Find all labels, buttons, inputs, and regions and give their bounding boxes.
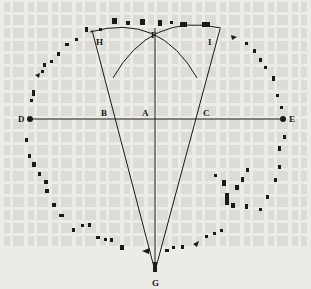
line-HG — [92, 30, 155, 271]
arc-left — [90, 27, 197, 78]
label-I: I — [208, 37, 212, 47]
label-F: F — [151, 30, 157, 40]
line-IG — [155, 29, 220, 271]
label-A: A — [142, 108, 149, 118]
construction-lines — [30, 25, 283, 271]
scanned-page: D E B A C F H I G — [0, 0, 311, 289]
label-E: E — [289, 114, 295, 124]
arc-right — [113, 25, 221, 78]
geometry-diagram: D E B A C F H I G — [0, 0, 311, 289]
label-H: H — [96, 37, 103, 47]
label-C: C — [203, 108, 210, 118]
label-B: B — [101, 108, 107, 118]
label-D: D — [18, 114, 25, 124]
label-G: G — [152, 278, 159, 288]
point-labels: D E B A C F H I G — [18, 30, 295, 288]
